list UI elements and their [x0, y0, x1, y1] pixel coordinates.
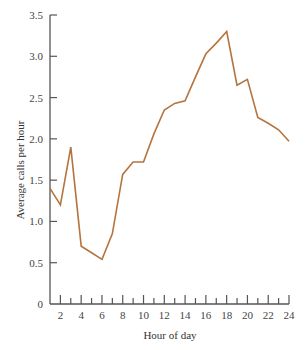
x-tick-label: 12	[159, 309, 170, 321]
x-tick-label: 8	[120, 309, 126, 321]
line-chart: 00.51.01.52.02.53.03.5 24681012141618202…	[0, 0, 308, 350]
x-tick-label: 22	[263, 309, 274, 321]
data-line	[50, 32, 289, 260]
y-axis-ticks: 00.51.01.52.02.53.03.5	[29, 9, 57, 310]
y-tick-label: 0	[38, 298, 44, 310]
x-axis-title: Hour of day	[143, 329, 197, 341]
x-axis-ticks: 24681012141618202224	[58, 295, 295, 321]
x-tick-label: 24	[284, 309, 296, 321]
x-tick-label: 14	[180, 309, 192, 321]
y-axis-title: Average calls per hour	[14, 120, 26, 219]
x-tick-label: 16	[200, 309, 212, 321]
y-tick-label: 0.5	[29, 257, 43, 269]
x-tick-label: 20	[242, 309, 254, 321]
x-tick-label: 2	[58, 309, 64, 321]
x-tick-label: 6	[99, 309, 105, 321]
x-tick-label: 18	[221, 309, 233, 321]
x-tick-label: 10	[138, 309, 150, 321]
y-tick-label: 3.5	[29, 9, 43, 21]
y-tick-label: 1.0	[29, 215, 43, 227]
y-tick-label: 3.0	[29, 50, 43, 62]
x-tick-label: 4	[78, 309, 84, 321]
y-tick-label: 2.0	[29, 133, 43, 145]
y-tick-label: 1.5	[29, 174, 43, 186]
y-tick-label: 2.5	[29, 92, 43, 104]
